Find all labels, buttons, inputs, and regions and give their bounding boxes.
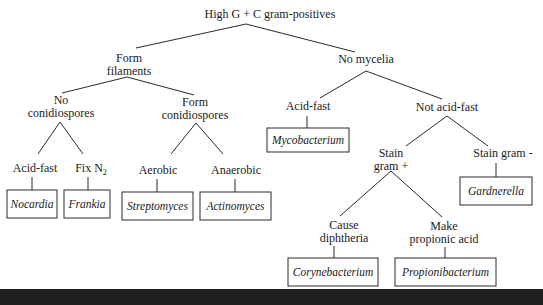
tree-edge xyxy=(136,24,246,48)
leaf-label: Gardnerella xyxy=(468,185,524,197)
node-no-mycelia: No mycelia xyxy=(338,52,394,66)
node-no-conidio: Noconidiospores xyxy=(28,93,95,120)
node-stain-pos: Staingram + xyxy=(374,146,409,173)
leaf-frankia: Frankia xyxy=(64,190,110,218)
leaf-label: Nocardia xyxy=(9,198,53,210)
leaf-label: Streptomyces xyxy=(127,200,188,213)
tree-edge xyxy=(127,77,194,95)
leaf-label: Corynebacterium xyxy=(293,266,373,279)
tree-edge xyxy=(391,171,442,217)
leaf-label: Propionibacterium xyxy=(401,266,489,279)
node-root: High G + C gram-positives xyxy=(205,7,336,21)
tree-edge xyxy=(246,24,355,52)
leaf-corynebacterium: Corynebacterium xyxy=(288,258,378,286)
tree-edge xyxy=(340,171,391,216)
node-anaerobic: Anaerobic xyxy=(211,163,261,177)
tree-edge xyxy=(60,122,83,154)
tree-edge xyxy=(196,123,223,154)
node-fix-n2: Fix N2 xyxy=(75,161,107,177)
node-diphtheria: Causediphtheria xyxy=(320,218,369,245)
leaf-gardnerella: Gardnerella xyxy=(460,177,532,205)
tree-edge xyxy=(320,71,366,98)
tree-edge xyxy=(171,123,196,154)
tree-edge xyxy=(366,71,442,99)
leaf-label: Mycobacterium xyxy=(271,134,344,147)
tree-edge xyxy=(447,116,488,146)
node-stain-neg: Stain gram - xyxy=(473,146,532,160)
leaf-propionibacterium: Propionibacterium xyxy=(395,258,496,286)
tree-edge xyxy=(38,122,60,154)
tree-edge xyxy=(406,116,447,146)
classification-tree: High G + C gram-positivesFormfilamentsNo… xyxy=(0,0,543,305)
bottom-border-bar xyxy=(0,289,543,305)
node-acid-fast-l: Acid-fast xyxy=(13,161,58,175)
leaf-mycobacterium: Mycobacterium xyxy=(267,128,349,152)
leaf-label: Actinomyces xyxy=(205,200,265,213)
leaf-actinomyces: Actinomyces xyxy=(200,192,271,220)
node-acid-fast-r: Acid-fast xyxy=(286,99,331,113)
node-aerobic: Aerobic xyxy=(139,163,178,177)
node-form-conidio: Formconidiospores xyxy=(162,95,229,122)
node-propionic: Makepropionic acid xyxy=(410,219,479,246)
tree-leaves: MycobacteriumNocardiaFrankiaStreptomyces… xyxy=(7,128,532,286)
tree-edge xyxy=(62,77,127,93)
node-filaments: Formfilaments xyxy=(107,51,152,78)
leaf-nocardia: Nocardia xyxy=(7,190,57,218)
tree-edges xyxy=(32,24,496,258)
leaf-streptomyces: Streptomyces xyxy=(122,192,193,220)
node-not-acid-fast: Not acid-fast xyxy=(416,100,479,114)
leaf-label: Frankia xyxy=(67,198,105,210)
